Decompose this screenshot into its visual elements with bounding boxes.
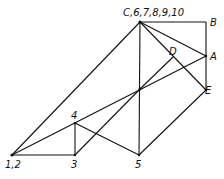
label-12: 1,2 (5, 159, 21, 170)
labels: C,6,7,8,9,10 B A D E 4 1,2 3 5 (5, 7, 217, 170)
edge-4-5 (75, 123, 139, 155)
edges (12, 22, 206, 155)
node-3 (74, 154, 76, 156)
node-C (138, 20, 141, 23)
label-B: B (210, 17, 217, 28)
edge-3-O (75, 89, 140, 155)
label-3: 3 (71, 159, 77, 170)
label-4: 4 (71, 110, 77, 121)
label-5: 5 (135, 159, 141, 170)
edge-5-E (139, 90, 206, 155)
node-O (139, 88, 142, 91)
node-12 (10, 153, 13, 156)
diagram-canvas: C,6,7,8,9,10 B A D E 4 1,2 3 5 (0, 0, 224, 179)
node-4 (74, 122, 76, 124)
edge-12-C (12, 22, 140, 155)
label-A: A (209, 51, 217, 62)
node-A (205, 55, 207, 57)
label-C: C,6,7,8,9,10 (123, 7, 184, 18)
label-D: D (169, 46, 177, 57)
node-5 (138, 154, 140, 156)
label-E: E (205, 85, 212, 96)
edge-O-D (140, 57, 173, 89)
